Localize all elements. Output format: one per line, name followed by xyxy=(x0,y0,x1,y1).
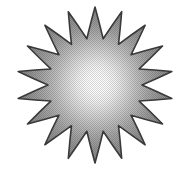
image-canvas: A grey starburst sun with many sharp poi… xyxy=(0,0,184,182)
sunburst-star-graphic xyxy=(0,0,184,182)
